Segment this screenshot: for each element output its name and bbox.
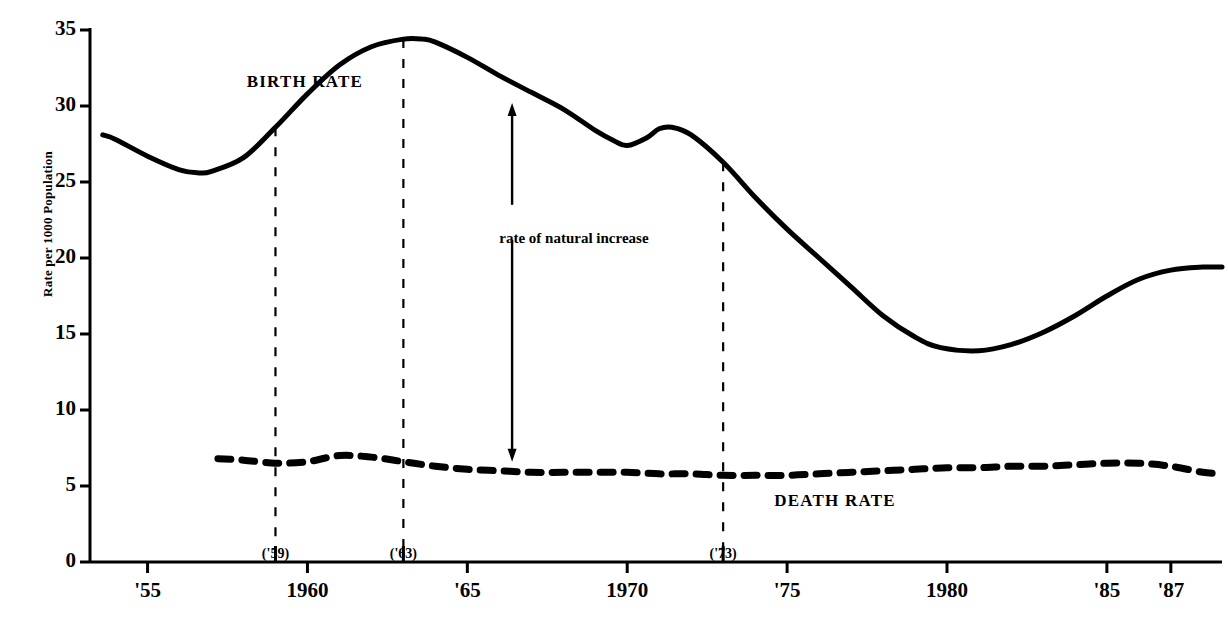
chart-vertical-markers	[275, 39, 723, 558]
y-tick-label: 20	[32, 244, 76, 269]
natural-increase-arrow	[508, 103, 517, 462]
death-rate-label: DEATH RATE	[774, 491, 895, 511]
x-sub-tick-label: ('73)	[688, 546, 758, 562]
x-tick-label: 1970	[582, 578, 672, 603]
y-tick-label: 30	[32, 92, 76, 117]
y-tick-label: 25	[32, 168, 76, 193]
x-tick-label: '75	[742, 578, 832, 603]
x-tick-label: 1960	[262, 578, 352, 603]
birth-rate-label: BIRTH RATE	[247, 72, 363, 92]
x-tick-label: '55	[103, 578, 193, 603]
rate-of-natural-increase-label: rate of natural increase	[499, 230, 648, 247]
x-tick-label: 1980	[902, 578, 992, 603]
series-line-death-rate	[218, 455, 1222, 475]
y-tick-label: 10	[32, 396, 76, 421]
chart-figure: Rate per 1000 Population 05101520253035 …	[0, 0, 1228, 621]
y-tick-label: 5	[32, 472, 76, 497]
y-axis-label: Rate per 1000 Population	[40, 124, 56, 324]
y-tick-label: 0	[32, 548, 76, 573]
chart-series	[103, 38, 1222, 475]
y-tick-label: 35	[32, 16, 76, 41]
x-tick-label: '87	[1126, 578, 1216, 603]
chart-axes	[80, 28, 1222, 573]
x-sub-tick-label: ('63)	[368, 546, 438, 562]
x-tick-label: '65	[422, 578, 512, 603]
x-sub-tick-label: ('59)	[240, 546, 310, 562]
y-tick-label: 15	[32, 320, 76, 345]
chart-plot-area	[0, 0, 1228, 621]
